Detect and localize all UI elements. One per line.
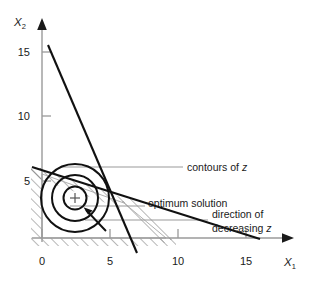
- y-axis-ticks: 5 10 15: [18, 46, 51, 187]
- optimum-solution-marker: [70, 193, 80, 203]
- x-tick-label-15: 15: [240, 255, 252, 267]
- annotation-contours-of-z: contours of z: [187, 161, 248, 173]
- x-axis-label: X1: [283, 256, 296, 271]
- y-tick-label-15: 15: [18, 46, 30, 58]
- annotation-contours-italic: z: [241, 161, 248, 173]
- steep-constraint-line: [48, 45, 137, 253]
- figure-root: 5 10 15 0 5 10 15 X2 X1: [0, 0, 315, 287]
- y-axis-label-subscript: 2: [22, 22, 26, 31]
- x-tick-label-5: 5: [107, 255, 113, 267]
- annotation-direction-prefix: decreasing: [212, 222, 266, 234]
- annotation-direction-italic: z: [265, 222, 272, 234]
- y-tick-label-5: 5: [24, 175, 30, 187]
- annotation-contours-prefix: contours of: [187, 161, 242, 173]
- annotation-direction-line1: direction of: [212, 208, 263, 220]
- x-axis-label-subscript: 1: [292, 262, 296, 271]
- annotation-direction-line2: decreasing z: [212, 222, 272, 234]
- y-axis-arrowhead: [37, 18, 47, 30]
- y-axis-label: X2: [13, 16, 26, 31]
- hatch-band-bottom: [31, 238, 176, 246]
- nonlinear-program-diagram: 5 10 15 0 5 10 15 X2 X1: [0, 0, 315, 287]
- x-tick-label-10: 10: [172, 255, 184, 267]
- y-tick-label-10: 10: [18, 110, 30, 122]
- x-axis-arrowhead: [282, 233, 294, 243]
- x-tick-label-0: 0: [39, 255, 45, 267]
- x-axis-ticks: 0 5 10 15: [39, 229, 252, 267]
